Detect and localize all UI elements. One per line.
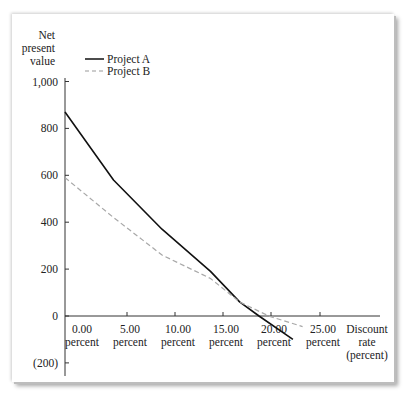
y-tick-label: (200) xyxy=(33,357,58,370)
x-ticks: 0.00percent5.00percent10.00percent15.00p… xyxy=(65,312,341,349)
y-tick-label: 1,000 xyxy=(32,76,58,89)
x-tick-label: 25.00 xyxy=(310,323,336,335)
y-tick-label: 400 xyxy=(41,216,59,228)
y-tick-label: 600 xyxy=(41,169,59,181)
x-tick-label-unit: percent xyxy=(113,336,148,349)
y-axis-label: Netpresentvalue xyxy=(22,29,56,67)
y-tick-label: 800 xyxy=(41,122,59,134)
series-project-b xyxy=(65,178,303,327)
x-tick-label: 5.00 xyxy=(120,323,140,335)
y-tick-label: 0 xyxy=(52,310,58,322)
x-axis-label: Discountrate(percent) xyxy=(346,323,388,362)
npv-chart: 1,0008006004002000(200) 0.00percent5.00p… xyxy=(0,0,405,399)
x-tick-label: 0.00 xyxy=(72,323,92,335)
x-tick-label-unit: percent xyxy=(65,336,100,349)
svg-text:(percent): (percent) xyxy=(346,349,388,362)
x-tick-label-unit: percent xyxy=(209,336,244,349)
legend-label-b: Project B xyxy=(107,65,150,78)
series-lines xyxy=(65,112,303,339)
x-tick-label-unit: percent xyxy=(161,336,196,349)
x-tick-label: 15.00 xyxy=(213,323,239,335)
svg-text:rate: rate xyxy=(358,336,375,348)
x-tick-label: 10.00 xyxy=(165,323,191,335)
y-ticks: 1,0008006004002000(200) xyxy=(32,76,69,370)
x-tick-label-unit: percent xyxy=(257,336,292,349)
svg-text:present: present xyxy=(22,42,56,55)
y-tick-label: 200 xyxy=(41,263,59,275)
legend: Project A Project B xyxy=(85,53,151,78)
svg-text:value: value xyxy=(30,55,55,67)
series-project-a xyxy=(65,112,293,339)
svg-text:Net: Net xyxy=(38,29,55,41)
svg-text:Discount: Discount xyxy=(346,323,388,335)
x-tick-label-unit: percent xyxy=(306,336,341,349)
